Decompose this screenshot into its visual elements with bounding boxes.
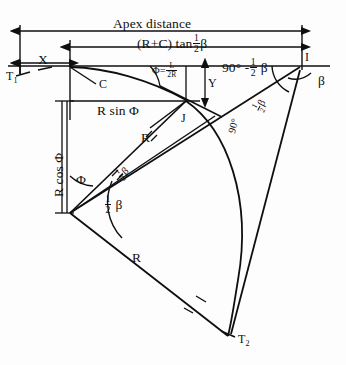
beta-corner-label: β bbox=[318, 74, 325, 88]
y-offset-label: Y bbox=[208, 77, 217, 89]
r-cos-phi-label: R cos Φ bbox=[52, 153, 66, 197]
x-dimension-label: X bbox=[38, 53, 48, 67]
beta-symbol: β bbox=[200, 36, 207, 51]
phi-formula-label: Φ=L2R bbox=[152, 62, 178, 78]
apex-distance-label: Apex distance bbox=[113, 17, 191, 31]
half-fraction-2: 12 bbox=[250, 57, 257, 78]
point-label-J: J bbox=[181, 112, 186, 124]
point-label-T1: T1 bbox=[6, 70, 18, 85]
r-sin-phi-label: R sin Φ bbox=[97, 104, 139, 118]
rc-tan-prefix: (R+C) tan bbox=[137, 36, 192, 51]
point-label-T2: T2 bbox=[238, 333, 250, 348]
main-circular-arc bbox=[186, 101, 242, 336]
half-fraction: 12 bbox=[193, 33, 200, 54]
ninety-minus-half-beta-label: 90° -12 β bbox=[222, 57, 268, 78]
phi-centre-label: Φ bbox=[76, 173, 86, 187]
tick-T2 bbox=[221, 331, 235, 337]
point-label-C: C bbox=[99, 78, 107, 90]
phi-fraction: L2R bbox=[166, 62, 177, 78]
half-fraction-4: 12 bbox=[105, 194, 112, 215]
rc-tan-half-beta-label: (R+C) tan12β bbox=[137, 33, 207, 54]
point-label-I: I bbox=[305, 51, 309, 63]
tangent-dashed-T1 bbox=[16, 67, 52, 76]
radius-label-lower: R bbox=[132, 251, 141, 265]
radius-line-O-T2 bbox=[70, 213, 228, 336]
diagram-root: Apex distance (R+C) tan12β X T1 C Φ=L2R … bbox=[0, 0, 346, 365]
radius-label-upper: R bbox=[141, 131, 150, 145]
half-beta-centre-label: 12 β bbox=[104, 194, 122, 215]
